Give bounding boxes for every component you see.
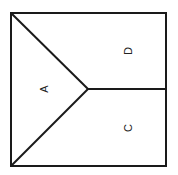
- region-label-d: D: [123, 47, 134, 55]
- diagram-canvas: [0, 0, 178, 175]
- divider-top-left: [11, 13, 88, 89]
- region-label-a: A: [39, 85, 50, 92]
- region-label-c: C: [123, 124, 134, 132]
- divider-bottom-left: [11, 89, 88, 166]
